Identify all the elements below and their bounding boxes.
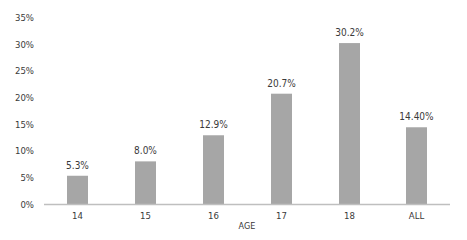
bar (339, 43, 360, 204)
bar (406, 127, 427, 204)
y-tick-label: 0% (20, 199, 34, 210)
y-axis-ticks: 0%5%10%15%20%25%30%35% (15, 12, 34, 210)
data-labels: 5.3%8.0%12.9%20.7%30.2%14.40% (66, 27, 434, 171)
y-tick-label: 10% (15, 145, 34, 156)
data-label: 5.3% (66, 160, 89, 171)
y-tick-label: 30% (15, 39, 34, 50)
y-tick-label: 5% (20, 172, 34, 183)
bar (271, 94, 292, 204)
y-tick-label: 15% (15, 119, 34, 130)
bar (67, 176, 88, 204)
y-tick-label: 35% (15, 12, 34, 23)
x-tick-label: 17 (276, 210, 287, 221)
data-label: 14.40% (399, 111, 434, 122)
y-tick-label: 25% (15, 65, 34, 76)
data-label: 20.7% (267, 78, 296, 89)
bar-chart: 0%5%10%15%20%25%30%35% 5.3%8.0%12.9%20.7… (0, 0, 467, 240)
y-tick-label: 20% (15, 92, 34, 103)
x-axis-title: AGE (239, 221, 256, 231)
data-label: 12.9% (199, 119, 228, 130)
bar (203, 135, 224, 204)
x-axis-ticks: 1415161718ALL (72, 210, 424, 221)
x-tick-label: 15 (140, 210, 151, 221)
x-tick-label: ALL (409, 210, 425, 221)
data-label: 8.0% (134, 145, 157, 156)
x-tick-label: 14 (72, 210, 83, 221)
x-tick-label: 18 (344, 210, 355, 221)
bar (135, 161, 156, 204)
x-tick-label: 16 (208, 210, 219, 221)
bars (67, 43, 427, 204)
data-label: 30.2% (335, 27, 364, 38)
